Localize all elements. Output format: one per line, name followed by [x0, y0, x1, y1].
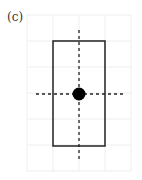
- diagram-canvas: [0, 0, 142, 180]
- center-dot: [73, 88, 86, 101]
